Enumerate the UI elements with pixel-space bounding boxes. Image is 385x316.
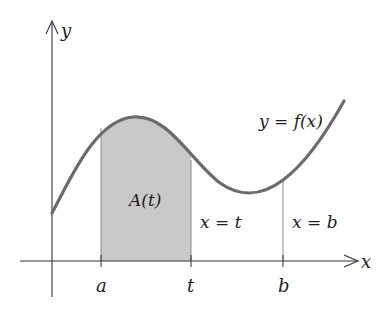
area-function-diagram: y x y = f(x) A(t) x = t x = b a t b: [0, 0, 385, 316]
tick-a-label: a: [96, 275, 107, 296]
line-t-label: x = t: [200, 212, 242, 232]
curve-label: y = f(x): [258, 111, 323, 131]
line-b-label: x = b: [292, 212, 338, 232]
tick-b-label: b: [278, 275, 290, 296]
area-label: A(t): [127, 190, 161, 210]
x-axis-label: x: [361, 251, 371, 272]
y-axis-label: y: [60, 20, 72, 41]
tick-t-label: t: [187, 275, 195, 296]
